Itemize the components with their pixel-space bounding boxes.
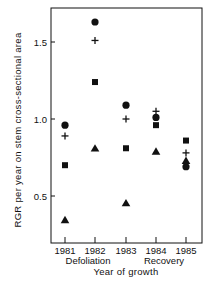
circle-marker <box>122 102 129 109</box>
plus-marker <box>183 149 190 156</box>
x-axis-ticks: 19811982198319841985 <box>54 237 196 256</box>
y-tick-label: 0.5 <box>34 191 47 202</box>
square-marker <box>123 145 129 151</box>
category-annotations: DefoliationRecovery <box>66 255 185 266</box>
y-axis-title: RGR per year on stem cross-sectional are… <box>12 32 23 227</box>
square-marker <box>153 122 159 128</box>
triangle-marker <box>61 216 70 223</box>
y-axis-ticks: 0.51.01.5 <box>34 37 55 202</box>
square-marker <box>62 162 68 168</box>
square-marker <box>92 79 98 85</box>
triangle-marker <box>122 199 131 206</box>
circle-marker <box>61 122 68 129</box>
data-points <box>61 18 191 223</box>
circle-marker <box>152 114 159 121</box>
plus-marker <box>92 37 99 44</box>
y-tick-label: 1.0 <box>34 114 47 125</box>
triangle-marker <box>152 147 161 154</box>
plus-marker <box>153 108 160 115</box>
circle-marker <box>91 18 98 25</box>
plus-marker <box>62 132 69 139</box>
x-tick-label: 1983 <box>115 245 136 256</box>
circle-marker <box>182 163 189 170</box>
plus-marker <box>123 116 130 123</box>
annotation-defoliation: Defoliation <box>66 255 111 266</box>
square-marker <box>183 138 189 144</box>
annotation-recovery: Recovery <box>144 255 184 266</box>
x-axis-title: Year of growth <box>93 266 158 277</box>
scatter-chart: 0.51.01.5 19811982198319841985 Defoliati… <box>0 0 213 287</box>
plot-frame <box>51 8 202 243</box>
triangle-marker <box>182 157 191 164</box>
y-tick-label: 1.5 <box>34 37 47 48</box>
triangle-marker <box>91 144 100 151</box>
